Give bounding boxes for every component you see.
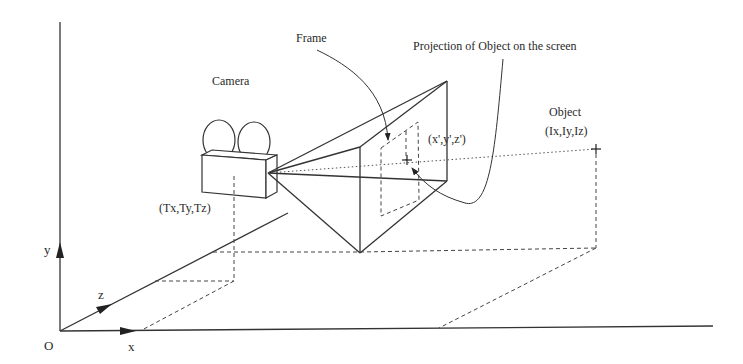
z-axis-label: z	[98, 288, 104, 301]
axis-arrows	[56, 242, 136, 335]
object-coords-label: (Ix,Iy,Iz)	[545, 125, 588, 137]
camera-drawing	[202, 120, 277, 198]
frame-label: Frame	[296, 32, 327, 44]
camera-projection-diagram: Frame Projection of Object on the screen…	[0, 0, 743, 364]
camera-position-guides	[142, 176, 360, 330]
y-axis-arrow-icon	[56, 242, 64, 258]
camera-label: Camera	[212, 75, 249, 87]
object-point-marker	[591, 144, 601, 154]
x-axis-arrow-icon	[120, 327, 136, 335]
object-position-guides	[360, 154, 596, 328]
diagram-drawing	[0, 0, 743, 364]
line-of-sight	[268, 149, 596, 173]
coordinate-axes	[60, 22, 713, 331]
projection-label: Projection of Object on the screen	[413, 40, 577, 52]
x-axis	[60, 326, 713, 331]
projection-point-marker	[402, 155, 412, 165]
projection-coords-label: (x',y',z')	[428, 133, 466, 145]
object-label: Object	[549, 106, 581, 118]
origin-label: O	[44, 339, 53, 352]
camera-coords-label: (Tx,Ty,Tz)	[159, 202, 211, 214]
z-axis	[60, 213, 288, 331]
y-axis-label: y	[44, 243, 51, 256]
x-axis-label: x	[128, 340, 135, 353]
viewing-frustum	[268, 81, 447, 253]
z-axis-arrow-icon	[96, 304, 112, 314]
frame-callout-arrow	[317, 50, 388, 140]
